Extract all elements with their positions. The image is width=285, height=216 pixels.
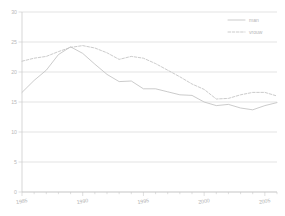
y-axis-tick-labels-group: 051015202530: [11, 9, 22, 195]
y-tick-label-20: 20: [11, 69, 17, 75]
x-tick-label-1985: 1985: [16, 197, 28, 205]
x-tick-label-1990: 1990: [76, 197, 88, 205]
y-tick-label-25: 25: [11, 39, 17, 45]
series-line-man: [22, 47, 277, 110]
x-tick-marks-group: [22, 192, 277, 196]
legend: manvrouw: [228, 17, 263, 35]
y-tick-label-5: 5: [14, 159, 17, 165]
chart-container: 051015202530 19851990199520002005 manvro…: [0, 0, 285, 216]
x-tick-label-2005: 2005: [258, 197, 270, 205]
legend-label-vrouw: vrouw: [249, 29, 263, 35]
y-tick-label-15: 15: [11, 99, 17, 105]
legend-label-man: man: [249, 17, 259, 23]
y-tick-label-30: 30: [11, 9, 17, 15]
x-tick-label-2000: 2000: [198, 197, 210, 205]
gridlines-group: [22, 12, 277, 192]
x-tick-label-1995: 1995: [137, 197, 149, 205]
y-tick-label-0: 0: [14, 189, 17, 195]
y-tick-label-10: 10: [11, 129, 17, 135]
line-chart: 051015202530 19851990199520002005 manvro…: [0, 0, 285, 216]
x-axis-tick-labels-group: 19851990199520002005: [16, 197, 271, 205]
